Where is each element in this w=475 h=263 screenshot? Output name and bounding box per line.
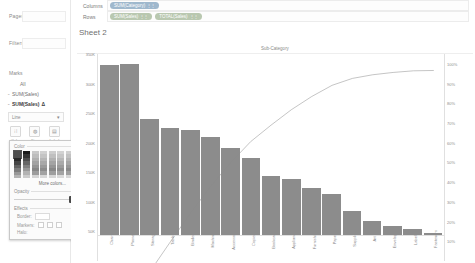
category-axis-cell[interactable]: Supplies	[343, 236, 362, 261]
pages-shelf-drop-zone[interactable]	[22, 11, 66, 22]
left-value-axis[interactable]: 350K300K250K200K150K100K50K	[77, 54, 97, 261]
grip-icon	[77, 15, 81, 19]
axis-tick-label: 200K	[86, 140, 95, 145]
grip-icon	[77, 4, 81, 8]
opacity-section-label: Opacity	[14, 189, 29, 194]
chevron-down-icon[interactable]: ⋮⋮	[140, 15, 148, 19]
right-percent-axis[interactable]: % of Total Running Sum of Sales 100%90%8…	[444, 54, 473, 261]
shelf-pill-label: SUM(Category)	[114, 3, 145, 8]
plot-wrapper: 350K300K250K200K150K100K50K ChairsPhones…	[77, 54, 473, 261]
category-axis-label: Envelopes	[392, 230, 397, 249]
shelf-pill[interactable]: SUM(Sales)⋮⋮	[110, 13, 152, 20]
filters-shelf-drop-zone[interactable]	[22, 38, 66, 49]
markers-option-all[interactable]	[56, 222, 62, 228]
opacity-slider[interactable]	[14, 199, 71, 200]
marks-measure-suffix: Δ	[42, 101, 46, 107]
markers-option-none[interactable]	[38, 222, 44, 228]
color-swatch[interactable]	[40, 175, 47, 178]
category-axis-cell[interactable]: Copiers	[242, 236, 261, 261]
category-axis-cell[interactable]: Furnishings	[302, 236, 321, 261]
category-axis-cell[interactable]: Envelopes	[383, 236, 402, 261]
mark-type-dropdown[interactable]: Line ▾	[8, 112, 64, 122]
shelf-pill[interactable]: SUM(Category)⋮⋮	[110, 2, 159, 9]
color-swatch-column[interactable]	[57, 151, 64, 178]
chart-area: Sub-Category 350K300K250K200K150K100K50K…	[77, 45, 473, 261]
category-axis-cell[interactable]: Paper	[322, 236, 341, 261]
category-axis-cell[interactable]: Phones	[120, 236, 139, 261]
axis-tick-label: 50%	[447, 160, 455, 165]
tableau-workspace: Pages Filters Marks All ⌄ SUM(Sales) ⌄ S…	[0, 0, 475, 263]
rows-drop-zone[interactable]: SUM(Sales)⋮⋮TOTAL(Sales)⋮⋮	[107, 11, 469, 22]
markers-option-auto[interactable]	[47, 222, 53, 228]
category-axis[interactable]: ChairsPhonesStorageTablesBindersMachines…	[98, 235, 444, 261]
category-axis-cell[interactable]: Appliances	[282, 236, 301, 261]
category-axis-label: Paper	[332, 234, 337, 245]
sheet-title[interactable]: Sheet 2	[71, 22, 475, 37]
axis-tick-label: 90%	[447, 81, 455, 86]
category-axis-label: Bookcases	[271, 229, 276, 249]
rows-label: Rows	[83, 14, 96, 20]
category-axis-label: Binders	[190, 232, 195, 246]
axis-tick-label: 60%	[447, 140, 455, 145]
shelf-pill[interactable]: TOTAL(Sales)⋮⋮	[155, 13, 201, 20]
axis-tick-label: 80%	[447, 101, 455, 106]
color-swatch[interactable]	[32, 175, 39, 178]
selected-color-column[interactable]	[14, 151, 21, 178]
axis-tick-label: 70%	[447, 120, 455, 125]
color-swatch-column[interactable]	[32, 151, 39, 178]
axis-tick-label: 350K	[86, 52, 95, 57]
border-label: Border:	[17, 214, 32, 219]
chart-column-header: Sub-Category	[77, 45, 473, 54]
category-axis-cell[interactable]: Chairs	[100, 236, 119, 261]
effects-section-label: Effects	[14, 206, 28, 211]
category-axis-cell[interactable]: Bookcases	[262, 236, 281, 261]
marks-card: Marks All ⌄ SUM(Sales) ⌄ SUM(Sales) Δ Li…	[0, 70, 70, 143]
columns-drop-zone[interactable]: SUM(Category)⋮⋮	[107, 0, 469, 11]
color-swatch[interactable]	[23, 175, 30, 178]
marks-measure-sum-sales-1[interactable]: ⌄ SUM(Sales)	[0, 87, 70, 97]
marks-all-row[interactable]: All	[0, 76, 70, 87]
category-axis-cell[interactable]: Storage	[140, 236, 159, 261]
color-swatch[interactable]	[49, 175, 56, 178]
left-sidebar: Pages Filters Marks All ⌄ SUM(Sales) ⌄ S…	[0, 0, 71, 263]
chevron-down-icon[interactable]: ⋮⋮	[147, 4, 155, 8]
axis-tick-label: 150K	[86, 170, 95, 175]
category-axis-label: Phones	[130, 232, 135, 246]
category-axis-label: Storage	[150, 232, 155, 246]
color-swatch[interactable]	[57, 175, 64, 178]
marks-measure-sum-sales-2[interactable]: ⌄ SUM(Sales) Δ	[0, 97, 70, 107]
category-axis-label: Copiers	[251, 232, 256, 246]
axis-tick-label: 40%	[447, 180, 455, 185]
category-axis-cell[interactable]: Machines	[201, 236, 220, 261]
axis-tick-label: 100K	[86, 199, 95, 204]
category-axis-cell[interactable]: Labels	[403, 236, 422, 261]
selected-color-swatch[interactable]	[14, 151, 21, 158]
category-axis-label: Tables	[170, 233, 175, 245]
category-axis-cell[interactable]: Accessories	[221, 236, 240, 261]
columns-shelf-row: Columns SUM(Category)⋮⋮	[71, 0, 475, 11]
axis-tick-label: 10%	[447, 239, 455, 244]
color-swatch-column[interactable]	[49, 151, 56, 178]
columns-shelf-name: Columns	[77, 3, 103, 9]
shelf-pill-label: TOTAL(Sales)	[159, 14, 187, 19]
markers-label: Markers:	[17, 223, 35, 228]
color-swatch-column[interactable]	[40, 151, 47, 178]
category-axis-label: Accessories	[231, 228, 236, 250]
category-axis-label: Labels	[413, 233, 418, 245]
border-dropdown[interactable]	[35, 213, 50, 220]
color-swatch[interactable]	[14, 175, 21, 178]
category-axis-cell[interactable]: Tables	[161, 236, 180, 261]
rows-shelf-row: Rows SUM(Sales)⋮⋮TOTAL(Sales)⋮⋮	[71, 11, 475, 22]
chevron-down-icon: ▾	[57, 115, 60, 120]
label-icon: ▤	[49, 126, 60, 137]
category-axis-cell[interactable]: Art	[363, 236, 382, 261]
category-axis-label: Art	[372, 236, 377, 241]
rows-shelf-name: Rows	[77, 14, 103, 20]
shelf-pill-label: SUM(Sales)	[114, 14, 138, 19]
marks-measure-label-1: SUM(Sales)	[12, 91, 39, 97]
axis-tick-label: 250K	[86, 111, 95, 116]
chevron-down-icon[interactable]: ⋮⋮	[190, 15, 198, 19]
color-swatch-column[interactable]	[23, 151, 30, 178]
category-axis-cell[interactable]: Fasteners	[424, 236, 443, 261]
category-axis-cell[interactable]: Binders	[181, 236, 200, 261]
